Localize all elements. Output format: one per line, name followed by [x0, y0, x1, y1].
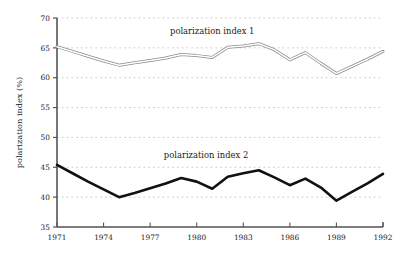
x-tick-label: 1980 — [187, 233, 206, 242]
x-tick-label: 1971 — [48, 233, 67, 242]
chart-background — [0, 0, 401, 258]
y-tick-label: 45 — [41, 163, 51, 172]
x-tick-label: 1977 — [141, 233, 160, 242]
y-tick-label: 40 — [41, 193, 51, 202]
line-chart: 3540455055606570 19711974197719801983198… — [0, 0, 401, 258]
x-tick-label: 1989 — [327, 233, 346, 242]
series-annotation-label: polarization index 2 — [164, 150, 248, 160]
x-tick-label: 1992 — [374, 233, 393, 242]
y-axis-title: polarization index (%) — [14, 77, 24, 168]
y-tick-label: 50 — [41, 133, 51, 142]
y-tick-label: 65 — [41, 44, 51, 53]
x-tick-label: 1983 — [234, 233, 253, 242]
y-tick-label: 70 — [41, 14, 51, 23]
chart-container: 3540455055606570 19711974197719801983198… — [0, 0, 401, 258]
y-tick-label: 35 — [41, 223, 51, 232]
x-tick-label: 1974 — [94, 233, 113, 242]
series-annotation-label: polarization index 1 — [170, 26, 254, 36]
y-tick-label: 55 — [41, 103, 51, 112]
x-tick-label: 1986 — [280, 233, 299, 242]
y-tick-label: 60 — [41, 73, 51, 82]
